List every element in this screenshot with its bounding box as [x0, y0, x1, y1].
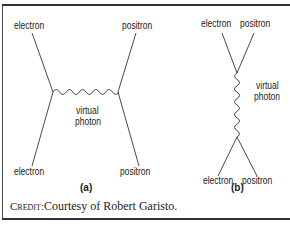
b-caption: (b) [231, 182, 244, 193]
b-label-electron-bottom: electron [203, 175, 233, 186]
a-virtual-photon-wave [53, 90, 119, 95]
b-virtual-photon-wave [235, 73, 240, 137]
b-label-virtual: virtual [256, 80, 279, 91]
a-label-positron-bottom: positron [120, 166, 150, 177]
a-label-electron-bottom: electron [14, 166, 44, 177]
a-label-positron-top: positron [122, 20, 152, 31]
credit-prefix: Credit: [10, 200, 44, 212]
b-electron-in-line [222, 33, 237, 73]
a-electron-out-line [32, 92, 53, 166]
a-electron-in-line [32, 33, 53, 92]
credit-line: Credit:Courtesy of Robert Garisto. [10, 199, 177, 214]
b-label-electron-top: electron [201, 18, 231, 29]
b-label-positron-bottom: positron [242, 175, 272, 186]
a-label-photon: photon [75, 116, 101, 127]
feynman-diagrams [0, 0, 290, 225]
b-electron-out-line [218, 137, 237, 176]
diagram-a-lines [32, 33, 139, 166]
b-label-positron-top: positron [240, 18, 270, 29]
a-caption: (a) [80, 182, 92, 193]
b-positron-out-line [237, 137, 257, 176]
b-positron-in-line [237, 33, 254, 73]
a-label-virtual: virtual [76, 105, 99, 116]
a-positron-out-line [118, 92, 139, 166]
a-positron-in-line [118, 33, 136, 92]
credit-text: Courtesy of Robert Garisto. [44, 199, 177, 213]
diagram-b-lines [218, 33, 257, 176]
a-label-electron-top: electron [14, 20, 44, 31]
b-label-photon: photon [254, 91, 280, 102]
